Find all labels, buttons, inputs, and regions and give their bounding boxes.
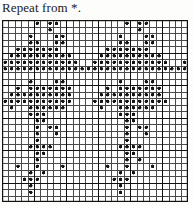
page-title: Repeat from *. <box>2 0 81 16</box>
pattern-chart-page: Repeat from *. <box>0 0 193 206</box>
pattern-grid-canvas <box>2 20 188 202</box>
pattern-chart <box>2 20 188 202</box>
